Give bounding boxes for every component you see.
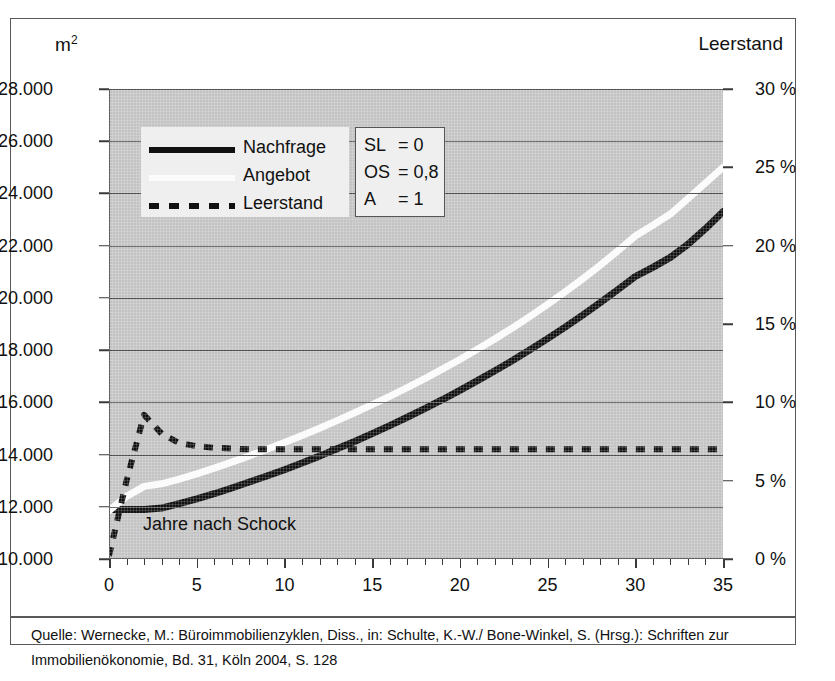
y-axis-left-tick-label: 18.000 bbox=[0, 340, 53, 361]
x-axis-tick-mark-minor bbox=[355, 559, 356, 565]
parameter-row-sl: SL = 0 bbox=[364, 132, 444, 159]
gridline bbox=[109, 350, 723, 351]
x-axis-tick-mark-minor bbox=[583, 559, 584, 565]
legend-swatch-angebot-icon bbox=[149, 175, 235, 181]
gridline bbox=[109, 507, 723, 508]
legend-label-nachfrage: Nachfrage bbox=[235, 137, 326, 158]
parameter-value-a: = 1 bbox=[398, 189, 424, 210]
x-axis-tick-mark-minor bbox=[600, 559, 601, 565]
parameter-key-os: OS bbox=[364, 162, 398, 183]
y-axis-left-tick-label: 14.000 bbox=[0, 444, 53, 465]
gridline bbox=[109, 402, 723, 403]
gridline bbox=[109, 89, 723, 90]
legend-item-angebot: Angebot bbox=[149, 161, 341, 189]
series-line-nachfrage bbox=[109, 212, 723, 510]
y-axis-left-tick-mark bbox=[99, 454, 109, 456]
y-axis-left-tick-label: 10.000 bbox=[0, 549, 53, 570]
x-axis-tick-mark-minor bbox=[688, 559, 689, 565]
x-axis-tick-mark-minor bbox=[320, 559, 321, 565]
parameter-value-sl: = 0 bbox=[398, 135, 424, 156]
series-line-angebot bbox=[109, 167, 723, 510]
x-axis-tick-mark-minor bbox=[670, 559, 671, 565]
x-axis-tick-mark-minor bbox=[530, 559, 531, 565]
y-axis-left-tick-label: 26.000 bbox=[0, 131, 53, 152]
x-axis-tick-mark-minor bbox=[179, 559, 180, 565]
source-caption: Quelle: Wernecke, M.: Büroimmobilienzykl… bbox=[31, 623, 775, 673]
y-axis-left-tick-mark bbox=[99, 193, 109, 195]
y-axis-right-tick-mark bbox=[723, 323, 733, 325]
y-axis-left-tick-label: 24.000 bbox=[0, 183, 53, 204]
gridline bbox=[109, 246, 723, 247]
gridline bbox=[109, 455, 723, 456]
legend-label-angebot: Angebot bbox=[235, 165, 310, 186]
x-axis-tick-mark-minor bbox=[267, 559, 268, 565]
x-axis-tick-mark-major bbox=[109, 559, 111, 568]
y-axis-right-tick-label: 20 % bbox=[755, 235, 796, 256]
x-axis-tick-mark-minor bbox=[442, 559, 443, 565]
parameter-row-os: OS = 0,8 bbox=[364, 159, 444, 186]
y-axis-left-tick-mark bbox=[99, 140, 109, 142]
figure-container: m2 Leerstand 10.00012.00014.00016.00018.… bbox=[10, 18, 796, 645]
x-axis-tick-mark-major bbox=[460, 559, 462, 568]
x-axis-tick-mark-major bbox=[284, 559, 286, 568]
legend-label-leerstand: Leerstand bbox=[235, 193, 323, 214]
y-axis-right-tick-mark bbox=[723, 480, 733, 482]
y-axis-right-tick-label: 30 % bbox=[755, 79, 796, 100]
chart-annotation-jahre-nach-schock: Jahre nach Schock bbox=[143, 514, 296, 535]
chart-legend: Nachfrage Angebot Leerstand bbox=[141, 127, 349, 217]
y-axis-right-tick-label: 5 % bbox=[755, 470, 786, 491]
y-axis-right-tick-mark bbox=[723, 558, 733, 560]
parameter-box: SL = 0 OS = 0,8 A = 1 bbox=[355, 127, 445, 217]
x-axis-tick-mark-minor bbox=[653, 559, 654, 565]
right-axis-title: Leerstand bbox=[698, 33, 783, 55]
caption-separator bbox=[11, 616, 795, 618]
y-axis-right-tick-mark bbox=[723, 402, 733, 404]
legend-swatch-nachfrage-icon bbox=[149, 147, 235, 153]
y-axis-right-tick-label: 25 % bbox=[755, 157, 796, 178]
x-axis-tick-mark-major bbox=[635, 559, 637, 568]
y-axis-left-tick-label: 22.000 bbox=[0, 235, 53, 256]
legend-item-nachfrage: Nachfrage bbox=[149, 133, 341, 161]
x-axis-tick-mark-minor bbox=[337, 559, 338, 565]
x-axis-tick-mark-major bbox=[372, 559, 374, 568]
legend-item-leerstand: Leerstand bbox=[149, 189, 341, 217]
x-axis-tick-mark-major bbox=[548, 559, 550, 568]
x-axis-tick-label: 0 bbox=[104, 575, 114, 596]
x-axis-tick-mark-minor bbox=[407, 559, 408, 565]
x-axis-tick-label: 15 bbox=[362, 575, 382, 596]
parameter-value-os: = 0,8 bbox=[398, 162, 439, 183]
y-axis-left-tick-mark bbox=[99, 245, 109, 247]
x-axis-tick-mark-minor bbox=[127, 559, 128, 565]
parameter-key-sl: SL bbox=[364, 135, 398, 156]
x-axis-tick-mark-minor bbox=[618, 559, 619, 565]
y-axis-left-tick-mark bbox=[99, 297, 109, 299]
y-axis-right-tick-mark bbox=[723, 88, 733, 90]
y-axis-right-tick-label: 0 % bbox=[755, 549, 786, 570]
x-axis-tick-label: 20 bbox=[450, 575, 470, 596]
y-axis-left-tick-label: 16.000 bbox=[0, 392, 53, 413]
parameter-row-a: A = 1 bbox=[364, 186, 444, 213]
gridline bbox=[109, 298, 723, 299]
x-axis-tick-mark-minor bbox=[512, 559, 513, 565]
y-axis-left-tick-label: 28.000 bbox=[0, 79, 53, 100]
x-axis-tick-mark-minor bbox=[302, 559, 303, 565]
y-axis-right-tick-mark bbox=[723, 167, 733, 169]
x-axis-tick-label: 25 bbox=[538, 575, 558, 596]
y-axis-left-tick-mark bbox=[99, 558, 109, 560]
x-axis-tick-mark-minor bbox=[249, 559, 250, 565]
x-axis-tick-mark-minor bbox=[390, 559, 391, 565]
x-axis-tick-label: 30 bbox=[625, 575, 645, 596]
parameter-key-a: A bbox=[364, 189, 398, 210]
y-axis-left-tick-mark bbox=[99, 349, 109, 351]
x-axis-tick-mark-minor bbox=[565, 559, 566, 565]
x-axis-tick-mark-major bbox=[723, 559, 725, 568]
x-axis-tick-label: 5 bbox=[192, 575, 202, 596]
y-axis-left-tick-mark bbox=[99, 88, 109, 90]
x-axis-tick-mark-major bbox=[197, 559, 199, 568]
y-axis-right-tick-label: 10 % bbox=[755, 392, 796, 413]
x-axis-tick-mark-minor bbox=[705, 559, 706, 565]
x-axis-tick-label: 10 bbox=[274, 575, 294, 596]
x-axis-tick-mark-minor bbox=[232, 559, 233, 565]
x-axis-tick-mark-minor bbox=[425, 559, 426, 565]
x-axis-tick-mark-minor bbox=[162, 559, 163, 565]
